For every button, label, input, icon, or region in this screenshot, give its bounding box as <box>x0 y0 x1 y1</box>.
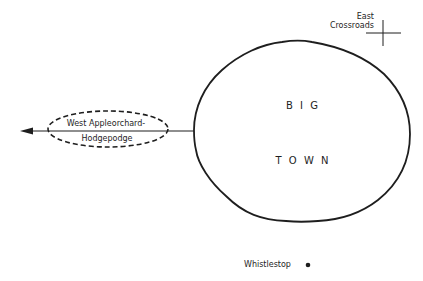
west-appleorchard-label-line1: West Appleorchard- <box>67 119 146 128</box>
whistlestop-dot-icon <box>306 263 311 268</box>
east-crossroads-label-line2: Crossroads <box>330 21 374 30</box>
west-arrowhead-icon <box>20 128 33 135</box>
town-map-diagram: B I G T O W N West Appleorchard- Hodgepo… <box>0 0 423 281</box>
big-town-boundary <box>194 41 410 222</box>
east-crossroads-label-line1: East <box>357 12 374 21</box>
west-appleorchard-label-line2: Hodgepodge <box>81 134 132 143</box>
big-town-label-line2: T O W N <box>275 155 331 166</box>
big-town-label-line1: B I G <box>286 100 320 111</box>
whistlestop-label: Whistlestop <box>244 260 291 269</box>
